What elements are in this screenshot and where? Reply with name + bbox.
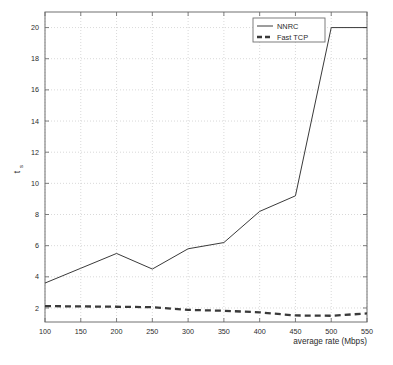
y-tick-label: 12 (31, 148, 39, 157)
x-tick-label: 150 (75, 327, 87, 336)
legend-label-fast-tcp: Fast TCP (277, 33, 308, 42)
y-tick-label: 2 (35, 304, 39, 313)
y-tick-label: 18 (31, 54, 39, 63)
x-tick-label: 450 (289, 327, 301, 336)
x-tick-label: 550 (361, 327, 373, 336)
legend-label-nnrc: NNRC (277, 22, 299, 31)
x-tick-label: 250 (146, 327, 158, 336)
x-tick-label: 200 (111, 327, 123, 336)
figure-container: 100150200250300350400450500550 246810121… (0, 0, 393, 365)
x-axis-title: average rate (Mbps) (293, 337, 367, 346)
y-tick-label: 6 (35, 241, 39, 250)
y-tick-label: 10 (31, 179, 39, 188)
x-tick-label: 100 (39, 327, 51, 336)
x-tick-label: 500 (325, 327, 337, 336)
x-tick-label: 300 (182, 327, 194, 336)
y-tick-label: 8 (35, 210, 39, 219)
line-chart: 100150200250300350400450500550 246810121… (0, 0, 393, 365)
y-tick-label: 4 (35, 272, 39, 281)
y-axis-title-subscript: s (18, 165, 24, 168)
legend: NNRCFast TCP (253, 18, 325, 42)
y-tick-label: 14 (31, 117, 39, 126)
y-tick-label: 16 (31, 85, 39, 94)
x-tick-label: 400 (254, 327, 266, 336)
y-tick-label: 20 (31, 23, 39, 32)
x-tick-label: 350 (218, 327, 230, 336)
